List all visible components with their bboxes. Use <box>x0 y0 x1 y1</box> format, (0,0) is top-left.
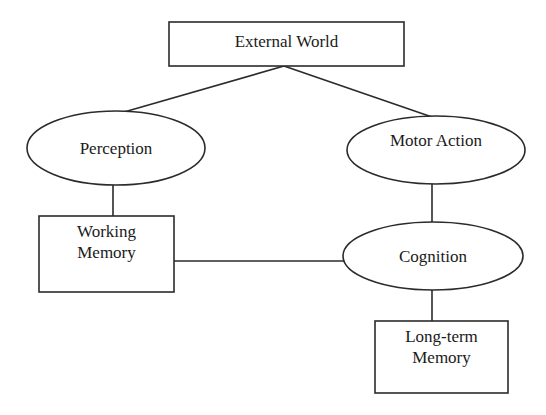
diagram-canvas: External World Perception Motor Action W… <box>0 0 546 415</box>
node-shape-long-term-memory[interactable] <box>375 321 508 393</box>
node-shape-motor-action[interactable] <box>347 116 525 184</box>
node-shape-perception[interactable] <box>27 111 205 185</box>
edge-external-world-to-perception <box>117 66 284 114</box>
edge-external-world-to-motor-action <box>284 66 432 117</box>
node-shape-external-world[interactable] <box>169 22 404 66</box>
node-shape-cognition[interactable] <box>343 222 523 290</box>
node-shape-working-memory[interactable] <box>39 216 174 292</box>
diagram-graphics <box>0 0 546 415</box>
